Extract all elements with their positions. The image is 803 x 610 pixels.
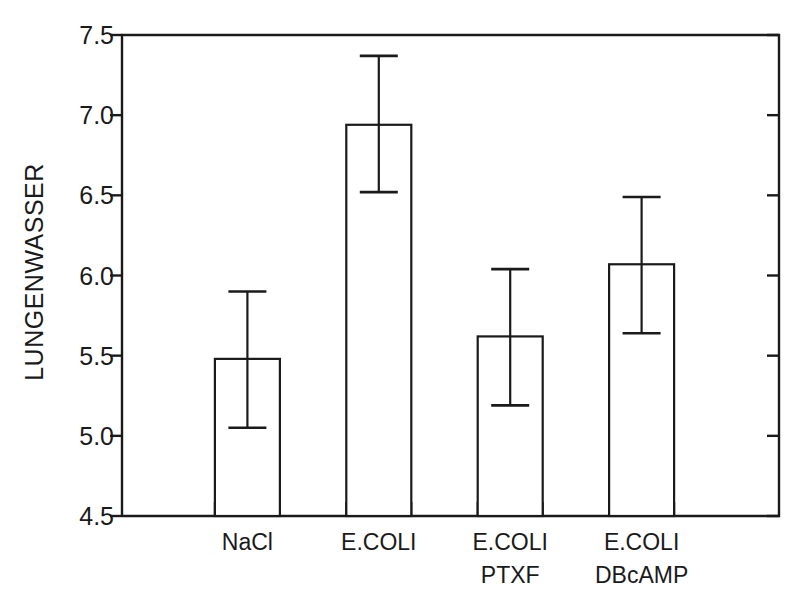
plot-area: [0, 0, 803, 610]
x-tick-label-line-2: DBcAMP: [595, 559, 688, 592]
x-tick-label-line-1: NaCl: [222, 529, 273, 555]
bars: [215, 125, 674, 516]
y-tick-label: 4.5: [79, 502, 114, 531]
x-tick-label: E.COLIPTXF: [472, 526, 547, 591]
x-axis-ticks: [215, 502, 674, 516]
x-tick-label-line-1: E.COLI: [604, 529, 679, 555]
x-tick-label: NaCl: [222, 526, 273, 559]
y-tick-label: 6.5: [79, 181, 114, 210]
y-tick-label: 5.0: [79, 421, 114, 450]
y-tick-label: 7.5: [79, 21, 114, 50]
x-tick-label-line-1: E.COLI: [341, 529, 416, 555]
error-bars: [228, 56, 660, 428]
y-axis-tick-labels: 4.55.05.56.06.57.07.5: [48, 0, 114, 610]
y-tick-label: 6.0: [79, 261, 114, 290]
x-tick-label-line-1: E.COLI: [472, 529, 547, 555]
x-tick-label: E.COLIDBcAMP: [595, 526, 688, 591]
x-tick-label-line-2: PTXF: [472, 559, 547, 592]
y-tick-label: 5.5: [79, 341, 114, 370]
y-tick-label: 7.0: [79, 101, 114, 130]
x-tick-label: E.COLI: [341, 526, 416, 559]
y-axis-ticks: [110, 35, 779, 516]
bar-chart-figure: LUNGENWASSER 4.55.05.56.06.57.07.5 NaClE…: [0, 0, 803, 610]
